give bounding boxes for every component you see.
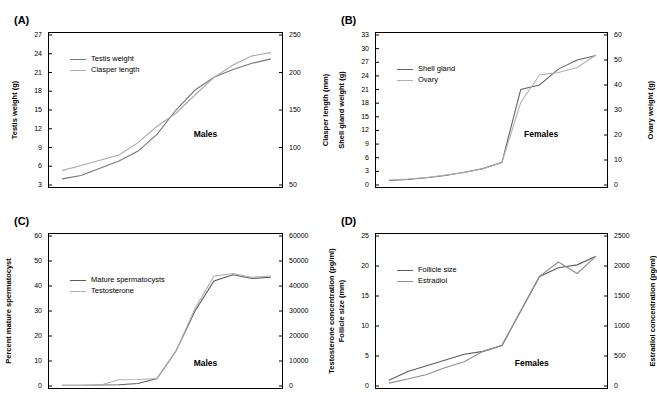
- legend-label: Clasper length: [91, 65, 139, 74]
- right-tick-label: 40: [614, 81, 622, 88]
- plot-area-3: [48, 233, 283, 389]
- left-tick-label: 30: [361, 45, 369, 52]
- series-line-1: [62, 59, 271, 179]
- left-tick-label: 24: [34, 50, 42, 57]
- right-tick-label: 50000: [289, 257, 308, 264]
- left-tick-label: 20: [361, 262, 369, 269]
- left-tick-label: 18: [361, 99, 369, 106]
- legend-label: Estradiol: [418, 276, 447, 285]
- left-tick-label: 21: [361, 86, 369, 93]
- legend-swatch: [397, 80, 413, 81]
- legend-label: Shell gland: [418, 64, 455, 73]
- left-tick-label: 0: [365, 382, 369, 389]
- left-tick-label: 25: [361, 232, 369, 239]
- legend-swatch: [397, 69, 413, 70]
- plot-area-1: [48, 32, 283, 188]
- plot-area-4: [375, 233, 608, 389]
- left-tick-label: 3: [365, 167, 369, 174]
- right-tick-label: 0: [289, 382, 293, 389]
- right-tick-label: 150: [289, 106, 301, 113]
- left-tick-label: 27: [34, 31, 42, 38]
- legend-swatch: [70, 59, 86, 60]
- left-tick-label: 27: [361, 58, 369, 65]
- left-axis-title: Testis weight (g): [10, 32, 19, 188]
- left-tick-label: 20: [34, 332, 42, 339]
- group-annotation: Females: [524, 129, 558, 139]
- series-line-1: [389, 256, 596, 380]
- legend-swatch: [70, 70, 86, 71]
- right-tick-label: 60: [614, 31, 622, 38]
- legend-label: Ovary: [418, 75, 438, 84]
- left-axis-title: Shell gland weight (g): [337, 32, 346, 188]
- left-tick-label: 0: [365, 181, 369, 188]
- left-tick-label: 12: [34, 125, 42, 132]
- right-tick-label: 250: [289, 31, 301, 38]
- legend-label: Mature spermatocysts: [91, 275, 165, 284]
- right-tick-label: 1500: [614, 292, 630, 299]
- left-tick-label: 9: [38, 144, 42, 151]
- left-tick-label: 10: [34, 357, 42, 364]
- legend-label: Testosterone: [91, 286, 134, 295]
- series-line-2: [389, 55, 596, 180]
- right-tick-label: 2500: [614, 232, 630, 239]
- left-tick-label: 33: [361, 31, 369, 38]
- left-tick-label: 15: [361, 292, 369, 299]
- right-axis-title: Estradiol concentration (pg/ml): [648, 233, 657, 389]
- left-tick-label: 6: [38, 162, 42, 169]
- panel-tag-2: (B): [341, 14, 356, 26]
- right-tick-label: 200: [289, 69, 301, 76]
- left-axis-title: Follicle size (mm): [337, 233, 346, 389]
- left-tick-label: 30: [34, 307, 42, 314]
- legend-label: Follicle size: [418, 265, 457, 274]
- left-tick-label: 40: [34, 282, 42, 289]
- left-tick-label: 24: [361, 72, 369, 79]
- right-tick-label: 2000: [614, 262, 630, 269]
- right-tick-label: 10: [614, 156, 622, 163]
- right-tick-label: 50: [289, 181, 297, 188]
- group-annotation: Females: [515, 358, 549, 368]
- legend-swatch: [70, 280, 86, 281]
- left-tick-label: 10: [361, 322, 369, 329]
- right-tick-label: 0: [614, 382, 618, 389]
- legend-swatch: [397, 281, 413, 282]
- right-axis-title: Ovary weight (g): [646, 32, 655, 188]
- left-tick-label: 3: [38, 181, 42, 188]
- right-tick-label: 20: [614, 131, 622, 138]
- group-annotation: Males: [194, 129, 218, 139]
- panel-tag-1: (A): [14, 14, 29, 26]
- right-tick-label: 40000: [289, 282, 308, 289]
- right-tick-label: 0: [614, 181, 618, 188]
- left-tick-label: 6: [365, 154, 369, 161]
- left-tick-label: 21: [34, 69, 42, 76]
- right-tick-label: 30000: [289, 307, 308, 314]
- right-tick-label: 100: [289, 144, 301, 151]
- legend-label: Testis weight: [91, 54, 134, 63]
- left-tick-label: 18: [34, 87, 42, 94]
- right-tick-label: 1000: [614, 322, 630, 329]
- right-tick-label: 30: [614, 106, 622, 113]
- panel-tag-3: (C): [14, 215, 29, 227]
- panel-tag-4: (D): [341, 215, 356, 227]
- right-tick-label: 60000: [289, 232, 308, 239]
- right-axis-title: Clasper length (mm): [321, 32, 330, 188]
- right-tick-label: 20000: [289, 332, 308, 339]
- left-tick-label: 0: [38, 382, 42, 389]
- left-tick-label: 50: [34, 257, 42, 264]
- left-tick-label: 15: [34, 106, 42, 113]
- left-tick-label: 60: [34, 232, 42, 239]
- left-tick-label: 15: [361, 113, 369, 120]
- legend-swatch: [70, 291, 86, 292]
- left-tick-label: 12: [361, 126, 369, 133]
- left-tick-label: 9: [365, 140, 369, 147]
- group-annotation: Males: [194, 358, 218, 368]
- right-tick-label: 50: [614, 56, 622, 63]
- plot-area-2: [375, 32, 608, 188]
- left-axis-title: Percent mature spermatocyst: [4, 233, 13, 389]
- left-tick-label: 5: [365, 352, 369, 359]
- right-tick-label: 10000: [289, 357, 308, 364]
- legend-swatch: [397, 270, 413, 271]
- right-axis-title: Testosterone concentration (pg/ml): [327, 233, 336, 389]
- right-tick-label: 500: [614, 352, 626, 359]
